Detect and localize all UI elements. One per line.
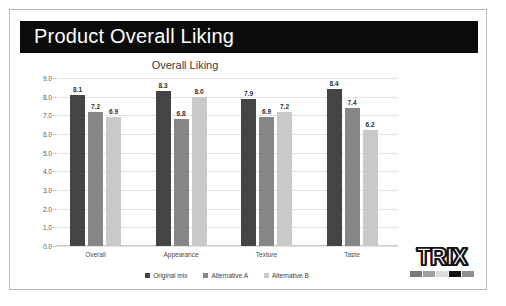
bar-group: 8.47.46.2Taste [313, 78, 399, 246]
logo-swatch [436, 271, 448, 277]
bar: 7.4 [345, 108, 360, 246]
trix-logo-wordmark: TRIX [410, 246, 474, 269]
bar-value-label: 6.2 [365, 121, 374, 128]
x-axis-category-label: Overall [85, 251, 106, 258]
trix-logo-swatches [410, 271, 474, 277]
bar-group: 8.36.88.0Appearance [142, 78, 228, 246]
legend-item[interactable]: Original mix [145, 272, 187, 279]
x-axis-category-label: Texture [256, 251, 277, 258]
bar-value-label: 8.4 [329, 80, 338, 87]
bar-value-label: 7.4 [347, 99, 356, 106]
bar-value-label: 7.9 [244, 90, 253, 97]
y-axis-label: 6.0 [43, 131, 52, 138]
legend-label: Alternative B [272, 272, 309, 279]
bar-group: 8.17.26.9Overall [56, 78, 142, 246]
bar-value-label: 7.2 [91, 103, 100, 110]
logo-swatch [423, 271, 435, 277]
bar-group: 7.96.97.2Texture [227, 78, 313, 246]
legend-swatch-icon [203, 273, 208, 278]
bar: 6.8 [174, 119, 189, 246]
slide-title-banner: Product Overall Liking [20, 21, 478, 53]
bar: 6.2 [363, 130, 378, 246]
bar-value-label: 7.2 [280, 103, 289, 110]
page-title: Product Overall Liking [34, 25, 234, 48]
y-axis-label: 5.0 [43, 149, 52, 156]
legend-label: Original mix [153, 272, 187, 279]
x-axis-category-label: Appearance [163, 251, 198, 258]
bar-value-label: 8.0 [194, 88, 203, 95]
trix-logo: TRIX [410, 246, 474, 277]
logo-swatch [449, 271, 461, 277]
legend-item[interactable]: Alternative B [264, 272, 309, 279]
bar-value-label: 6.8 [176, 110, 185, 117]
y-axis-label: 7.0 [43, 112, 52, 119]
slide-canvas: Product Overall Liking Overall Liking 9.… [9, 9, 487, 290]
logo-swatch [462, 271, 474, 277]
chart-plot-area: 9.08.07.06.05.04.03.02.01.00.08.17.26.9O… [56, 78, 398, 246]
y-gridline [56, 246, 398, 247]
y-axis-label: 8.0 [43, 93, 52, 100]
y-axis-label: 0.0 [43, 243, 52, 250]
legend-item[interactable]: Alternative A [203, 272, 248, 279]
y-axis-label: 3.0 [43, 187, 52, 194]
logo-swatch [410, 271, 422, 277]
legend-swatch-icon [145, 273, 150, 278]
bar: 8.3 [156, 91, 171, 246]
y-axis-label: 4.0 [43, 168, 52, 175]
chart-legend: Original mixAlternative AAlternative B [56, 272, 398, 279]
bar: 8.0 [192, 97, 207, 246]
y-axis-label: 9.0 [43, 75, 52, 82]
bar: 8.1 [70, 95, 85, 246]
bar: 7.9 [241, 99, 256, 246]
chart-title: Overall Liking [20, 59, 350, 71]
bar-value-label: 8.3 [158, 82, 167, 89]
y-axis-label: 2.0 [43, 205, 52, 212]
bar-value-label: 6.9 [262, 108, 271, 115]
bar: 6.9 [259, 117, 274, 246]
bar-value-label: 6.9 [109, 108, 118, 115]
bar: 8.4 [327, 89, 342, 246]
bar-value-label: 8.1 [73, 86, 82, 93]
bar: 7.2 [277, 112, 292, 246]
y-axis-label: 1.0 [43, 224, 52, 231]
legend-label: Alternative A [211, 272, 248, 279]
y-axis-tick [53, 246, 56, 247]
bar: 7.2 [88, 112, 103, 246]
bar: 6.9 [106, 117, 121, 246]
x-axis-category-label: Taste [344, 251, 360, 258]
legend-swatch-icon [264, 273, 269, 278]
